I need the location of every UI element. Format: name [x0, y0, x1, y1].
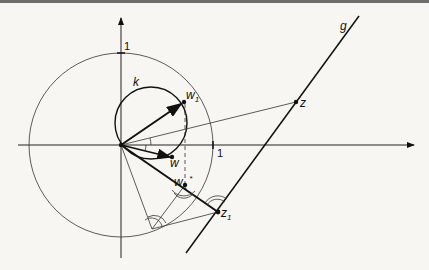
label-w1: w1 [186, 88, 199, 104]
label-w1star: w1* [174, 174, 193, 191]
label-k: k [133, 75, 140, 89]
ray-to-bottom [121, 145, 152, 229]
point-origin [119, 143, 123, 147]
point-z [294, 100, 298, 104]
line-g [186, 16, 359, 253]
label-g: g [340, 19, 347, 33]
label-w: w [170, 156, 180, 170]
line-bottom-w1star [152, 185, 185, 229]
line-bottom-z1 [152, 212, 218, 229]
label-unit-x: 1 [217, 147, 223, 159]
point-z1 [216, 210, 221, 215]
angle-arc-x-z [150, 138, 151, 145]
label-unit-y: 1 [124, 40, 130, 52]
vector-w1 [121, 104, 181, 145]
label-z1: z1 [220, 206, 231, 222]
diagram-canvas: g k z w1 w w1* z1 1 1 [0, 0, 429, 270]
label-z: z [299, 96, 306, 110]
angle-arc-x-w [145, 145, 146, 151]
